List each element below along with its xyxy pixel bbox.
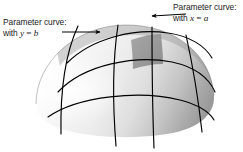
label-parameter-curve-y: Parameter curve: with y = b [3, 17, 66, 40]
parametric-surface-figure: Parameter curve: with y = b Parameter cu… [0, 0, 243, 152]
label-left-equals: = [24, 28, 34, 38]
label-right-line1: Parameter curve: [173, 2, 236, 13]
label-right-value: a [204, 13, 209, 23]
label-left-value: b [34, 28, 39, 38]
label-right-equals: = [194, 13, 204, 23]
label-right-line2: with x = a [173, 13, 236, 24]
label-parameter-curve-x: Parameter curve: with x = a [173, 2, 236, 25]
label-left-prefix: with [3, 28, 20, 38]
dome-surface [36, 18, 243, 137]
label-left-line1: Parameter curve: [3, 17, 66, 28]
label-left-line2: with y = b [3, 28, 66, 39]
label-right-prefix: with [173, 13, 190, 23]
parameter-patch [131, 34, 163, 69]
